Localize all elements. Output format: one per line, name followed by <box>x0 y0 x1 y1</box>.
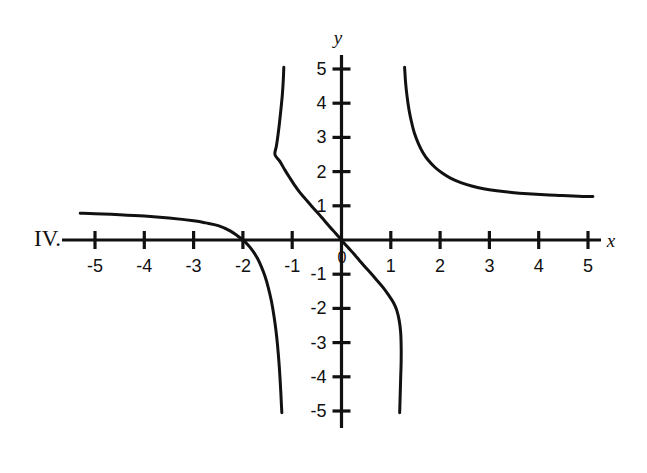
x-tick-label-3: 3 <box>484 256 494 276</box>
x-tick-label-2: 2 <box>435 256 445 276</box>
x-tick-label--2: -2 <box>235 256 251 276</box>
graph-figure: IV. -5-4-3-2-112345 54321-1-2-3-4-5 0 x … <box>0 0 647 473</box>
x-tick-label-4: 4 <box>534 256 544 276</box>
x-tick-label--3: -3 <box>186 256 202 276</box>
y-tick-label-2: 2 <box>316 162 326 182</box>
y-tick-label--2: -2 <box>310 298 326 318</box>
y-tick-label--1: -1 <box>310 264 326 284</box>
y-tick-label-5: 5 <box>316 59 326 79</box>
y-tick-label-4: 4 <box>316 93 326 113</box>
y-tick-label--3: -3 <box>310 333 326 353</box>
x-tick-label--4: -4 <box>136 256 152 276</box>
x-tick-label-5: 5 <box>583 256 593 276</box>
origin-label: 0 <box>338 249 347 266</box>
x-tick-label-1: 1 <box>386 256 396 276</box>
curve-left-branch <box>80 213 282 412</box>
x-axis-name: x <box>606 230 616 251</box>
figure-item-label: IV. <box>34 226 61 251</box>
y-tick-label-3: 3 <box>316 127 326 147</box>
y-tick-label--4: -4 <box>310 367 326 387</box>
x-tick-label--5: -5 <box>87 256 103 276</box>
curve-right-branch <box>405 67 593 196</box>
y-axis-name: y <box>332 27 343 48</box>
y-tick-label--5: -5 <box>310 401 326 421</box>
x-tick-label--1: -1 <box>284 256 300 276</box>
